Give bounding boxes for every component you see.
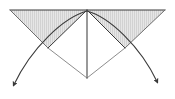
diagram-canvas [0, 0, 175, 99]
geometry-diagram [0, 0, 175, 99]
